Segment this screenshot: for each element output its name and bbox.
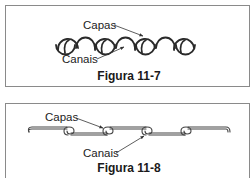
canal-arc — [96, 45, 115, 55]
hook-curl — [102, 40, 107, 53]
hook-curl — [181, 40, 186, 53]
hook-curl — [142, 40, 147, 53]
figure-11-7-label-canais: Canais — [62, 53, 98, 65]
canal-arc — [176, 45, 195, 55]
figure-11-8-label-capas: Capas — [45, 111, 78, 123]
cap-segment-inner — [28, 129, 67, 132]
seam-hook — [181, 127, 191, 135]
capa-arc — [156, 38, 175, 48]
figure-11-7-caption: Figura 11-7 — [97, 69, 161, 83]
figure-11-7-capas-arrow — [114, 25, 143, 36]
figure-11-8-canais-arrow — [116, 136, 144, 153]
capa-arc — [76, 38, 95, 48]
canal-arc — [136, 45, 155, 55]
figures-canvas: Capas Canais Figura 11-7 Capas Canais Fi… — [0, 0, 250, 178]
capa-arc — [116, 38, 135, 48]
figure-11-8-caption: Figura 11-8 — [97, 161, 161, 175]
figure-11-8-label-canais: Canais — [83, 147, 119, 159]
figure-11-7-label-capas: Capas — [83, 19, 116, 31]
hook-curl — [65, 40, 70, 53]
figure-11-8-capas-arrow — [76, 118, 103, 128]
seam-hook — [103, 127, 113, 135]
seam-hook — [142, 127, 152, 135]
cap-segment-inner — [188, 129, 228, 132]
figure-11-7-tile-rings — [56, 38, 195, 55]
figure-11-8-seam-profile — [28, 127, 230, 135]
seam-hook — [64, 127, 74, 135]
